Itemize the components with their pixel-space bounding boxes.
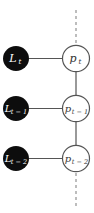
node-label-sub: t bbox=[19, 58, 22, 66]
svg-text:L: L bbox=[8, 52, 16, 65]
node-L_t-2: L t − 2 bbox=[3, 146, 29, 171]
svg-text:t − 1: t − 1 bbox=[72, 108, 88, 116]
node-label-sub: t − 2 bbox=[72, 158, 88, 166]
node-p_t-2: p t − 2 bbox=[63, 145, 90, 171]
svg-text:t − 1: t − 1 bbox=[11, 108, 27, 116]
graphical-model-diagram: L t p t L t − 1 p t − 1 L t − 2 p t − 2 bbox=[0, 0, 94, 213]
node-label-sub: t bbox=[79, 58, 82, 66]
node-label-sub: t − 1 bbox=[11, 108, 27, 116]
node-p_t-1: p t − 1 bbox=[63, 95, 90, 121]
node-label-sub: t − 1 bbox=[72, 108, 88, 116]
node-label-base: p bbox=[69, 52, 76, 65]
svg-text:t − 2: t − 2 bbox=[11, 158, 27, 166]
svg-text:t − 2: t − 2 bbox=[72, 158, 88, 166]
svg-text:p: p bbox=[69, 52, 76, 65]
node-L_t-1: L t − 1 bbox=[3, 96, 29, 121]
svg-text:t: t bbox=[79, 58, 82, 66]
node-label-base: p bbox=[65, 153, 72, 164]
svg-text:p: p bbox=[65, 103, 72, 114]
node-label-sub: t − 2 bbox=[11, 158, 27, 166]
svg-text:p: p bbox=[65, 153, 72, 164]
node-L_t: L t bbox=[3, 46, 29, 71]
node-label-base: p bbox=[65, 103, 72, 114]
svg-text:t: t bbox=[19, 58, 22, 66]
node-p_t: p t bbox=[63, 45, 90, 71]
node-label-base: L bbox=[8, 52, 16, 65]
